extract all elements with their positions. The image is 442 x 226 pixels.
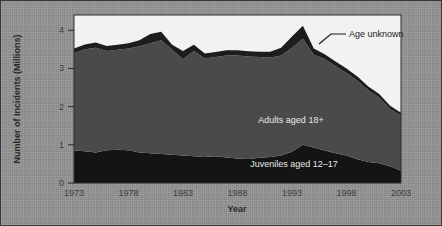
x-tick-label: 2003 [391,188,411,198]
y-tick-label: 0 [59,178,64,188]
y-tick-label: 4 [59,25,64,35]
y-axis-ticks: 01234 [59,25,74,188]
series-label-juveniles: Juveniles aged 12–17 [250,159,338,169]
series-label-adults: Adults aged 18+ [258,115,323,125]
x-tick-label: 1978 [118,188,138,198]
x-tick-label: 1998 [336,188,356,198]
y-tick-label: 2 [59,102,64,112]
x-axis-ticks: 1973197819831988199319982003 [64,188,411,198]
x-tick-label: 1973 [64,188,84,198]
x-tick-label: 1993 [282,188,302,198]
x-axis-title: Year [227,204,247,214]
y-axis-title: Number of Incidents (Millions) [12,34,22,163]
y-tick-label: 1 [59,140,64,150]
y-tick-label: 3 [59,63,64,73]
x-tick-label: 1988 [227,188,247,198]
x-tick-label: 1983 [173,188,193,198]
stacked-area-chart: 01234 1973197819831988199319982003 Numbe… [1,1,442,226]
series-label-age-unknown: Age unknown [349,29,404,39]
figure-container: 01234 1973197819831988199319982003 Numbe… [0,0,442,226]
